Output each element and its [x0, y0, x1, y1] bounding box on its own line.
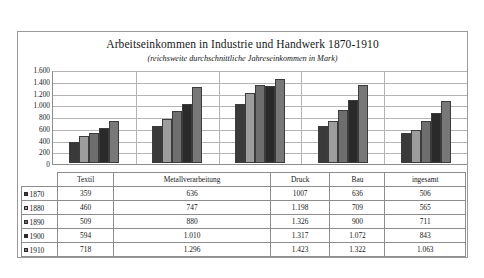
y-axis-tick-label: 1.400 [34, 79, 50, 86]
y-axis-tick-label: 200 [39, 150, 50, 157]
bar [328, 121, 338, 163]
y-axis-tick-label: 1.200 [34, 91, 50, 98]
bar [172, 111, 182, 163]
plot-area [52, 71, 467, 165]
data-table: TextilMetallverarbeitungDruckBauingesamt… [21, 172, 466, 257]
table-cell: 636 [330, 187, 385, 201]
table-column-header: Bau [330, 173, 385, 187]
bar [235, 104, 245, 163]
y-axis-tick-label: 1.600 [34, 67, 50, 74]
table-cell: 1.326 [270, 215, 330, 229]
table-body: 1870359636100763650618804607471.19870956… [22, 187, 466, 257]
chart-subtitle: (reichsweite durchschnittliche Jahresein… [18, 54, 467, 63]
table-row: 18703596361007636506 [22, 187, 466, 201]
chart-frame: Arbeitseinkommen in Industrie und Handwe… [17, 31, 468, 258]
table-corner-cell [22, 173, 58, 187]
legend-year-label: 1880 [30, 203, 45, 212]
table-cell: 1007 [270, 187, 330, 201]
bar [431, 113, 441, 163]
table-cell: 509 [58, 215, 114, 229]
table-cell: 1.296 [114, 243, 271, 257]
table-cell: 709 [330, 201, 385, 215]
table-cell: 1.317 [270, 229, 330, 243]
y-axis-tick-label: 1.000 [34, 103, 50, 110]
table-cell: 359 [58, 187, 114, 201]
table-column-header: Druck [270, 173, 330, 187]
table-column-header: Textil [58, 173, 114, 187]
bar [109, 121, 119, 163]
table-cell: 565 [385, 201, 466, 215]
y-axis-labels: 1.6001.4001.2001.0008006004002000 [18, 71, 50, 165]
bar [338, 110, 348, 163]
table-cell: 636 [114, 187, 271, 201]
plot-wrapper: 1.6001.4001.2001.0008006004002000 [18, 71, 469, 169]
bar [401, 133, 411, 163]
bar-group [219, 71, 302, 163]
table-cell: 1.423 [270, 243, 330, 257]
legend-year-label: 1910 [30, 245, 45, 254]
legend-swatch-icon [24, 248, 28, 252]
legend-year-label: 1900 [30, 231, 45, 240]
table-cell: 843 [385, 229, 466, 243]
table-cell: 1.198 [270, 201, 330, 215]
table-cell: 718 [58, 243, 114, 257]
table-cell: 460 [58, 201, 114, 215]
legend-entry: 1890 [22, 215, 58, 229]
legend-year-label: 1870 [30, 189, 45, 198]
table-cell: 1.322 [330, 243, 385, 257]
legend-swatch-icon [24, 206, 28, 210]
data-table-wrapper: TextilMetallverarbeitungDruckBauingesamt… [21, 172, 466, 257]
table-cell: 594 [58, 229, 114, 243]
bar [265, 86, 275, 163]
bar [162, 119, 172, 163]
bar [318, 126, 328, 163]
table-header-row: TextilMetallverarbeitungDruckBauingesamt [22, 173, 466, 187]
chart-title: Arbeitseinkommen in Industrie und Handwe… [18, 38, 467, 50]
table-cell: 506 [385, 187, 466, 201]
legend-entry: 1910 [22, 243, 58, 257]
legend-swatch-icon [24, 220, 28, 224]
table-cell: 747 [114, 201, 271, 215]
bar [348, 100, 358, 163]
bar-group [53, 71, 136, 163]
bar [421, 121, 431, 163]
table-row: 18905098801.326900711 [22, 215, 466, 229]
table-row: 19107181.2961.4231.3221.063 [22, 243, 466, 257]
bar [152, 126, 162, 163]
legend-swatch-icon [24, 192, 28, 196]
bar [411, 130, 421, 163]
table-head: TextilMetallverarbeitungDruckBauingesamt [22, 173, 466, 187]
legend-entry: 1870 [22, 187, 58, 201]
legend-entry: 1900 [22, 229, 58, 243]
bar [275, 79, 285, 163]
table-cell: 711 [385, 215, 466, 229]
y-axis-tick-label: 800 [39, 114, 50, 121]
table-cell: 900 [330, 215, 385, 229]
bar-group [384, 71, 467, 163]
y-axis-tick-label: 600 [39, 126, 50, 133]
legend-year-label: 1890 [30, 217, 45, 226]
legend-swatch-icon [24, 234, 28, 238]
bar [245, 93, 255, 163]
table-column-header: ingesamt [385, 173, 466, 187]
table-cell: 1.010 [114, 229, 271, 243]
bar [89, 133, 99, 163]
bar [358, 85, 368, 163]
table-column-header: Metallverarbeitung [114, 173, 271, 187]
bar-group [301, 71, 384, 163]
table-cell: 1.072 [330, 229, 385, 243]
table-row: 19005941.0101.3171.072843 [22, 229, 466, 243]
bar-group [136, 71, 219, 163]
y-axis-tick-label: 0 [46, 161, 50, 168]
table-row: 18804607471.198709565 [22, 201, 466, 215]
bar [255, 85, 265, 163]
bar [79, 136, 89, 163]
legend-entry: 1880 [22, 201, 58, 215]
bar [182, 104, 192, 163]
table-cell: 1.063 [385, 243, 466, 257]
y-axis-tick-label: 400 [39, 138, 50, 145]
bar [441, 101, 451, 163]
bar [69, 142, 79, 163]
table-cell: 880 [114, 215, 271, 229]
bar-groups [53, 71, 467, 163]
